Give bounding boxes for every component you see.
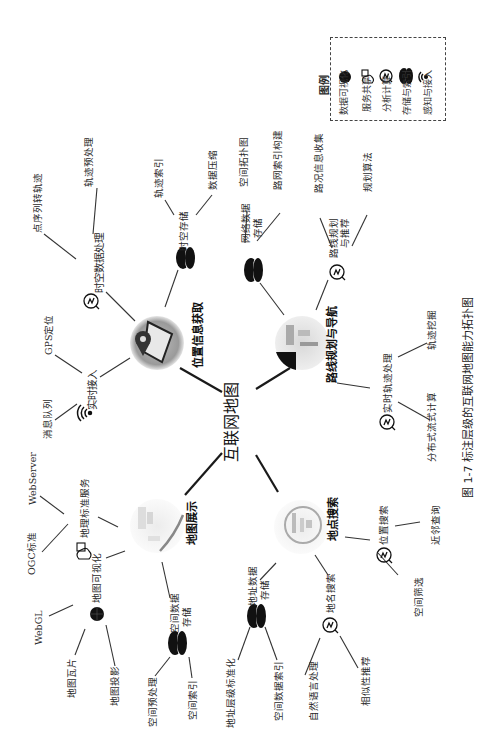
leaf-traffic-info: 路况信息收集 — [313, 133, 325, 193]
database-icon-network-storage — [244, 258, 263, 282]
node-addr-storage-line2: 存储 — [259, 580, 271, 600]
legend-item-visualization: 数据可视化 — [338, 70, 350, 115]
leaf-similarity: 相似性推荐 — [360, 656, 372, 706]
leaf-points-to-trajectory: 点序列转轨迹 — [32, 173, 44, 233]
node-loc-search: 位置搜索 — [378, 505, 390, 545]
hub-display-image — [130, 499, 184, 553]
leaf-data-compression: 数据压缩 — [207, 150, 219, 190]
leaf-road-index: 路网索引构建 — [272, 130, 284, 190]
legend-item-sensing: 感知与接入 — [422, 70, 434, 115]
leaf-gps: GPS定位 — [43, 315, 55, 356]
leaf-spatial-preprocess-text: 空间预处理 — [147, 677, 159, 727]
leaf-spatial-topology: 空间拓扑图 — [238, 137, 250, 187]
center-title: 互联网地图 — [226, 382, 238, 462]
node-map-vis: 地图可视化 — [91, 553, 103, 603]
legend-title: 图例 — [319, 75, 331, 95]
hub-poi-image — [274, 500, 328, 554]
node-realtime-access: 实时接入 — [86, 370, 98, 410]
hub-location-title: 位置信息获取 — [193, 302, 205, 368]
node-name-search: 地名搜索 — [325, 573, 337, 613]
node-network-storage: 网络数据 — [240, 203, 252, 243]
node-st-processing: 时空数据处理 — [93, 233, 105, 293]
legend-item-service: 服务共享 — [361, 76, 373, 112]
hub-routing-image — [275, 316, 329, 370]
database-icon-addr-storage — [247, 604, 266, 628]
hub-routing-title: 路线规划与导航 — [327, 306, 339, 383]
leaf-nlp: 自然语言处理 — [308, 661, 320, 721]
leaf-traj-preprocess: 轨迹预处理 — [83, 137, 95, 187]
database-icon-spatial-storage — [168, 631, 187, 655]
leaf-spatial-index: 空间索引 — [187, 680, 199, 720]
legend-item-storage: 存储与索引 — [401, 70, 413, 115]
hub-display-title: 地图展示 — [187, 501, 199, 545]
leaf-planning-algorithm: 规划算法 — [362, 152, 374, 192]
node-route-planning-line2: 与推荐 — [339, 218, 351, 248]
leaf-message-queue: 消息队列 — [42, 399, 54, 439]
leaf-webgl: WebGL — [33, 610, 45, 645]
leaf-webserver: WebServer — [27, 452, 39, 505]
leaf-spatial-data-index: 空间数据索引 — [273, 661, 285, 721]
node-network-storage-line2: 存储 — [252, 218, 264, 238]
node-geo-service: 地理标准服务 — [79, 478, 91, 538]
leaf-map-projection: 地图投影 — [109, 666, 121, 706]
leaf-ogc: OGC标准 — [26, 532, 38, 575]
wifi-signal-icon — [78, 72, 428, 421]
leaf-map-tiles: 地图瓦片 — [66, 658, 78, 698]
leaf-addr-normalization: 地址层级标准化 — [225, 658, 237, 728]
node-st-storage: 时空存储 — [178, 211, 190, 251]
node-addr-storage: 地址数据 — [247, 566, 259, 606]
node-realtime-traj: 实时轨迹处理 — [382, 353, 394, 413]
leaf-traj-mining: 轨迹挖掘 — [426, 310, 438, 350]
leaf-knn-query: 近邻查询 — [430, 505, 442, 545]
figure-caption: 图 1-7 标注层级的互联网地图能力拓扑图 — [463, 297, 475, 498]
leaf-spatial-filter: 空间筛选 — [413, 577, 425, 617]
node-spatial-storage: 空间数据 — [169, 593, 181, 633]
hub-location-image — [130, 316, 184, 370]
leaf-stream-computing: 分布式流式计算 — [426, 392, 438, 462]
leaf-traj-index: 轨迹索引 — [153, 158, 165, 198]
node-spatial-storage-line2: 存储 — [181, 607, 193, 627]
legend-item-analysis: 分析计算 — [381, 76, 393, 112]
hub-poi-title: 地点搜索 — [328, 497, 340, 541]
